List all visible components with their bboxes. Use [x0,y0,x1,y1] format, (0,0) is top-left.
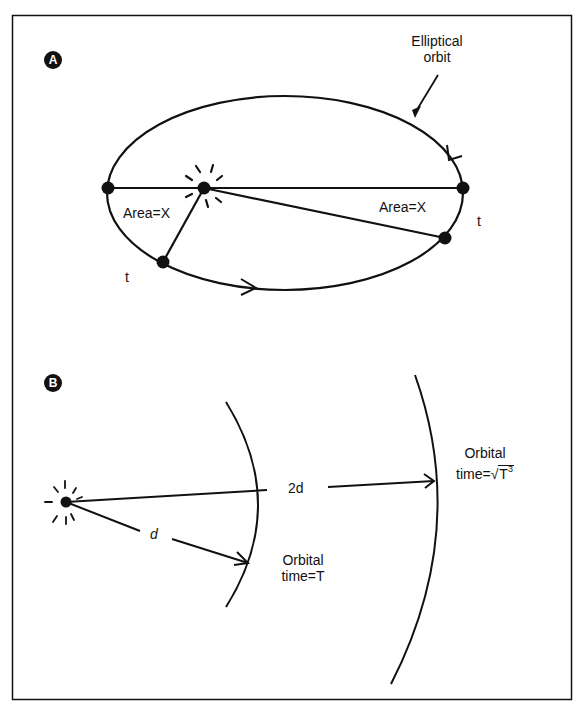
orbit-point-aphelion [457,182,470,195]
sun-a-icon [198,182,211,195]
distance-line-2d-right [328,481,434,487]
panel-b-badge: B [44,374,62,392]
inner-orbit-time-line2: time=T [272,568,334,584]
outer-orbit-arc [391,375,438,684]
radius-line-left [163,188,204,262]
inner-orbit-time-label: Orbital time=T [272,552,334,584]
area-right-label: Area=X [379,199,426,215]
radicand-exponent: 3 [508,464,513,474]
panel-b-drawing [66,375,438,684]
figure-frame [13,16,572,700]
inner-orbit-arc [226,402,258,607]
panel-a-points [102,182,470,269]
orbit-point-right-bottom [439,232,452,245]
panel-a-badge: A [44,51,62,69]
distance-2d-label: 2d [288,480,304,496]
outer-orbit-time-prefix: time= [456,466,491,482]
distance-line-2d-left [66,490,267,502]
direction-arrow-right-icon [447,145,462,160]
elliptical-orbit-label-line2: orbit [402,49,472,65]
elliptical-orbit-label-line1: Elliptical [402,33,472,49]
distance-line-d-right [172,539,248,563]
outer-orbit-time-label: Orbital time=√T3 [445,445,525,482]
orbit-point-left-bottom [157,256,170,269]
area-left-label: Area=X [123,205,170,221]
sun-b-icon [61,497,72,508]
inner-orbit-time-line1: Orbital [272,552,334,568]
orbit-pointer-line [418,75,438,108]
distance-line-d-left [66,502,140,531]
time-left-label: t [125,269,129,285]
diagram-canvas [0,0,583,713]
outer-orbit-time-line1: Orbital [445,445,525,461]
orbit-point-perihelion [102,182,115,195]
elliptical-orbit-label: Elliptical orbit [402,33,472,65]
distance-d-label: d [150,526,158,542]
outer-orbit-time-line2: time=√T3 [445,461,525,482]
time-right-label: t [477,213,481,229]
radicand-base: T [499,466,508,482]
radicand: T3 [498,465,514,482]
orbit-pointer-arrowhead-icon [412,106,421,118]
